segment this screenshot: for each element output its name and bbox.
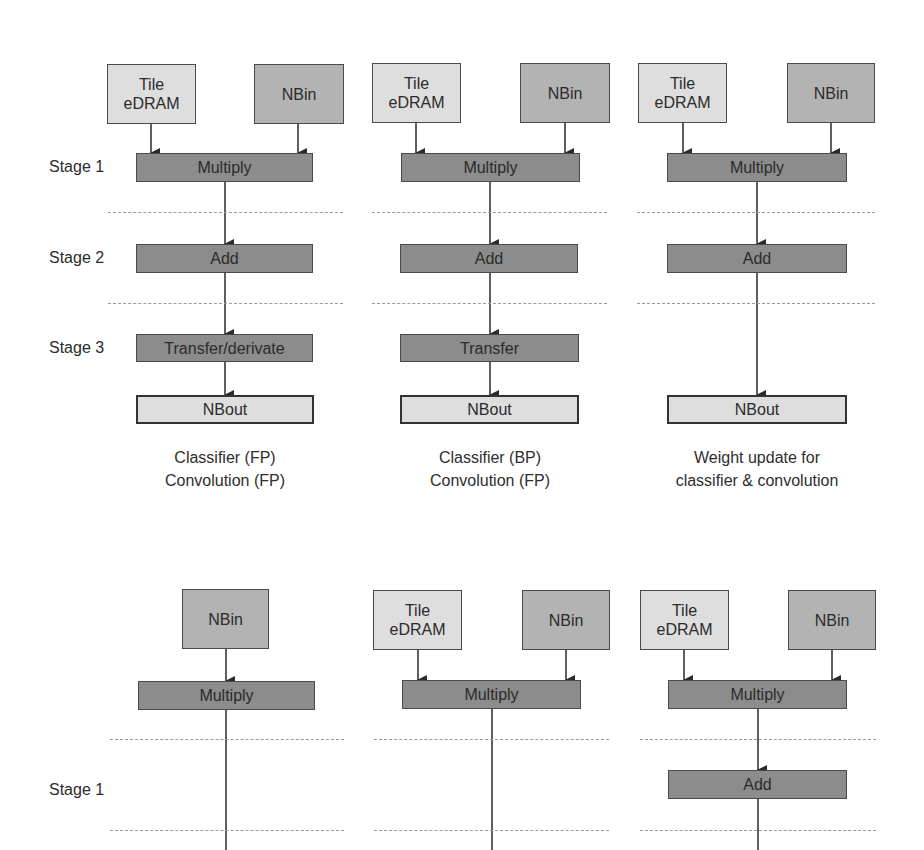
- nbin-block: NBin: [522, 590, 610, 650]
- tile-edram-block: Tile eDRAM: [640, 590, 729, 650]
- stage-separator: [640, 830, 876, 831]
- tile-edram-block: Tile eDRAM: [373, 590, 462, 650]
- stage-separator: [374, 830, 609, 831]
- stage-separator: [637, 212, 875, 213]
- stage-label-2: Stage 2: [49, 249, 104, 267]
- stage-separator: [108, 212, 343, 213]
- tile-edram-block: Tile eDRAM: [107, 64, 196, 124]
- caption-line: Convolution (FP): [390, 469, 590, 492]
- multiply-block: Multiply: [136, 153, 313, 182]
- add-block: Add: [136, 244, 313, 273]
- nbin-block: NBin: [254, 64, 344, 124]
- panel-caption: Classifier (FP) Convolution (FP): [125, 446, 325, 492]
- caption-line: Weight update for: [647, 446, 867, 469]
- multiply-block: Multiply: [138, 681, 315, 710]
- caption-line: Classifier (BP): [390, 446, 590, 469]
- nbout-block: NBout: [400, 395, 579, 424]
- transfer-derivate-block: Transfer/derivate: [136, 334, 313, 362]
- stage-separator: [637, 303, 875, 304]
- stage-separator: [110, 739, 344, 740]
- nbin-block: NBin: [520, 63, 610, 123]
- tile-edram-block: Tile eDRAM: [638, 63, 727, 123]
- tile-edram-block: Tile eDRAM: [372, 63, 461, 123]
- stage-label-1: Stage 1: [49, 781, 104, 799]
- stage-separator: [110, 830, 344, 831]
- nbout-block: NBout: [667, 395, 847, 424]
- add-block: Add: [400, 244, 578, 273]
- nbin-block: NBin: [787, 63, 875, 123]
- stage-label-1: Stage 1: [49, 158, 104, 176]
- stage-separator: [640, 739, 876, 740]
- multiply-block: Multiply: [667, 153, 847, 182]
- multiply-block: Multiply: [402, 680, 581, 709]
- nbin-block: NBin: [788, 590, 876, 650]
- caption-line: Classifier (FP): [125, 446, 325, 469]
- stage-label-3: Stage 3: [49, 339, 104, 357]
- add-block: Add: [667, 244, 847, 273]
- multiply-block: Multiply: [668, 680, 847, 709]
- multiply-block: Multiply: [401, 153, 580, 182]
- transfer-block: Transfer: [400, 334, 579, 362]
- connector-arrows: [0, 0, 924, 850]
- caption-line: classifier & convolution: [647, 469, 867, 492]
- stage-separator: [108, 303, 343, 304]
- stage-separator: [372, 212, 607, 213]
- panel-caption: Weight update for classifier & convoluti…: [647, 446, 867, 492]
- stage-separator: [374, 739, 609, 740]
- nbin-block: NBin: [182, 589, 269, 649]
- panel-caption: Classifier (BP) Convolution (FP): [390, 446, 590, 492]
- caption-line: Convolution (FP): [125, 469, 325, 492]
- stage-separator: [372, 303, 607, 304]
- nbout-block: NBout: [136, 395, 314, 424]
- add-block: Add: [668, 770, 847, 799]
